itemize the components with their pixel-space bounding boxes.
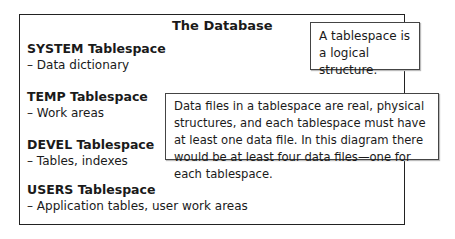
tablespace-desc: – Work areas <box>27 105 148 122</box>
tablespace-name: USERS Tablespace <box>27 181 248 198</box>
logical-structure-callout: A tablespace is a logical structure. <box>310 22 420 70</box>
tablespace-desc: – Data dictionary <box>27 57 166 74</box>
tablespace-devel: DEVEL Tablespace – Tables, indexes <box>27 136 154 170</box>
tablespace-name: TEMP Tablespace <box>27 88 148 105</box>
database-title: The Database <box>172 18 273 33</box>
tablespace-desc: – Application tables, user work areas <box>27 198 248 215</box>
tablespace-system: SYSTEM Tablespace – Data dictionary <box>27 40 166 74</box>
physical-structure-callout: Data files in a tablespace are real, phy… <box>165 93 439 160</box>
tablespace-temp: TEMP Tablespace – Work areas <box>27 88 148 122</box>
tablespace-name: SYSTEM Tablespace <box>27 40 166 57</box>
tablespace-users: USERS Tablespace – Application tables, u… <box>27 181 248 215</box>
tablespace-name: DEVEL Tablespace <box>27 136 154 153</box>
tablespace-desc: – Tables, indexes <box>27 153 154 170</box>
